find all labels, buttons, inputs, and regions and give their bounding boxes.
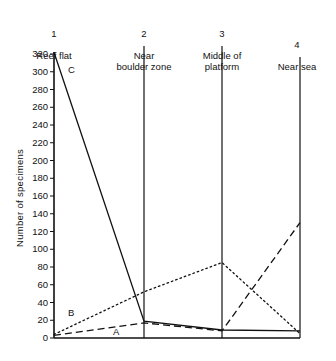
plot-area	[0, 0, 336, 361]
series-line-C	[54, 52, 300, 331]
series-line-B	[54, 263, 300, 335]
reef-specimens-chart: 1 Reef flat 2 Near boulder zone 3 Middle…	[0, 0, 336, 361]
